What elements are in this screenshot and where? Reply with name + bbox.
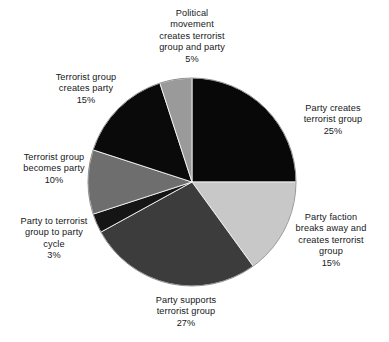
- pie-slice-label-text: Party faction breaks away and creates te…: [276, 212, 386, 258]
- pie-slice-label-text: Party supports terrorist group: [126, 295, 246, 318]
- pie-slice-label-party-to-terrorist-group-cycle: Party to terrorist group to party cycle …: [2, 216, 106, 262]
- pie-slice-label-party-creates-terrorist-group: Party creates terrorist group 25%: [279, 103, 387, 137]
- pie-slice-label-percent: 5%: [140, 54, 244, 65]
- pie-slice-label-text: Party creates terrorist group: [279, 103, 387, 126]
- pie-slice-label-text: Political movement creates terrorist gro…: [140, 8, 244, 54]
- pie-slice-label-percent: 10%: [2, 175, 106, 186]
- pie-slice-label-text: Party to terrorist group to party cycle: [2, 216, 106, 250]
- pie-slice-label-political-movement: Political movement creates terrorist gro…: [140, 8, 244, 65]
- pie-slice-label-percent: 3%: [2, 250, 106, 261]
- pie-slice-label-terrorist-group-becomes-party: Terrorist group becomes party 10%: [2, 152, 106, 186]
- pie-slice-label-party-faction-breaks-away: Party faction breaks away and creates te…: [276, 212, 386, 269]
- pie-slice-label-text: Terrorist group becomes party: [2, 152, 106, 175]
- pie-slice-label-text: Terrorist group creates party: [32, 72, 140, 95]
- pie-slice-label-party-supports-terrorist-group: Party supports terrorist group 27%: [126, 295, 246, 329]
- pie-slice-group: [88, 78, 296, 286]
- pie-chart-figure: Party creates terrorist group 25% Party …: [0, 0, 389, 342]
- pie-slice-label-percent: 15%: [276, 258, 386, 269]
- pie-slice-label-percent: 25%: [279, 126, 387, 137]
- pie-slice-label-percent: 15%: [32, 95, 140, 106]
- pie-slice-label-percent: 27%: [126, 318, 246, 329]
- figure-caption: [8, 333, 382, 341]
- pie-slice-label-terrorist-group-creates-party: Terrorist group creates party 15%: [32, 72, 140, 106]
